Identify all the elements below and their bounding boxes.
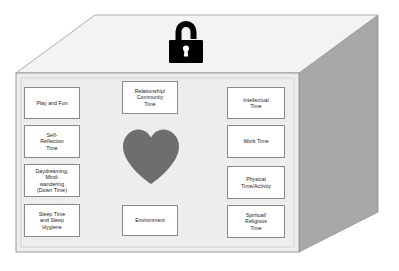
card-sleep-time-and-sleep-hygiene-label: Sleep Timeand SleepHygiene [26, 211, 78, 229]
card-spiritual-religious-time-label: Spiritual/ReligiousTime [229, 212, 283, 230]
card-intellectual-time-label: IntellectualTime [229, 97, 283, 109]
card-self-reflection-time[interactable]: Self-ReflectionTime [24, 125, 80, 158]
card-relationship-community-time[interactable]: Relationship/CommunityTime [122, 81, 178, 114]
card-daydreaming-mind-wandering[interactable]: Daydreaming,Mind-wandering(Down Time) [24, 164, 80, 197]
card-work-time[interactable]: Work Time [227, 125, 285, 158]
card-work-time-label: Work Time [229, 138, 283, 144]
front-face-content: Play and Fun Self-ReflectionTime Daydrea… [16, 73, 299, 252]
card-daydreaming-mind-wandering-label: Daydreaming,Mind-wandering(Down Time) [26, 168, 78, 193]
card-physical-time-activity[interactable]: PhysicalTime/Activity [227, 166, 285, 199]
diagram-canvas: Play and Fun Self-ReflectionTime Daydrea… [0, 0, 399, 271]
card-environment-label: Environment [124, 217, 176, 223]
unlocked-padlock-icon [165, 16, 213, 66]
card-sleep-time-and-sleep-hygiene[interactable]: Sleep Timeand SleepHygiene [24, 204, 80, 237]
card-intellectual-time[interactable]: IntellectualTime [227, 87, 285, 119]
card-play-and-fun-label: Play and Fun [26, 100, 78, 106]
card-self-reflection-time-label: Self-ReflectionTime [26, 132, 78, 150]
card-play-and-fun[interactable]: Play and Fun [24, 87, 80, 119]
card-relationship-community-time-label: Relationship/CommunityTime [124, 88, 176, 106]
card-environment[interactable]: Environment [122, 205, 178, 236]
heart-icon [121, 128, 181, 186]
padlock-shackle [176, 21, 197, 40]
card-spiritual-religious-time[interactable]: Spiritual/ReligiousTime [227, 205, 285, 238]
card-physical-time-activity-label: PhysicalTime/Activity [229, 176, 283, 188]
